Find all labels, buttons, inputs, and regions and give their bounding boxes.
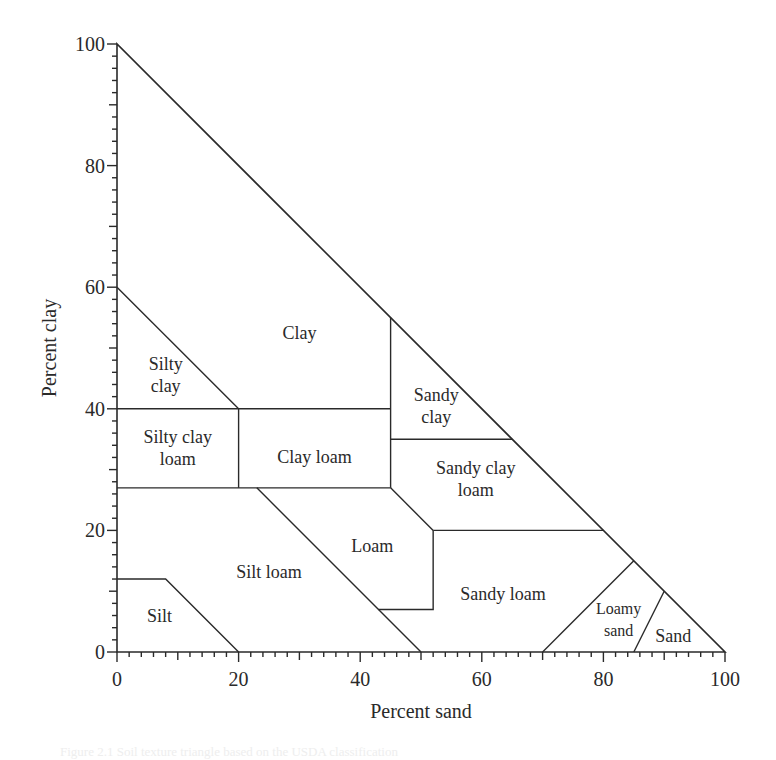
x-axis-title: Percent sand	[370, 700, 472, 722]
region-label-sandy-loam: Sandy loam	[460, 584, 546, 604]
y-tick-label: 40	[85, 398, 105, 420]
region-label-silt-loam: Silt loam	[236, 562, 302, 582]
y-tick-label: 0	[95, 641, 105, 663]
silt-boundary	[117, 579, 239, 652]
region-label-sandy-clay: clay	[421, 407, 451, 427]
axis-ticks	[107, 44, 725, 662]
loam-scl-diagonal	[391, 488, 434, 531]
region-label-clay-loam: Clay loam	[277, 447, 352, 467]
region-label-sandy-clay: Sandy	[414, 385, 459, 405]
x-tick-label: 80	[593, 668, 613, 690]
region-label-silty-clay: Silty	[149, 354, 183, 374]
x-tick-label: 40	[350, 668, 370, 690]
region-label-loam: Loam	[351, 536, 393, 556]
region-label-sand: Sand	[655, 626, 691, 646]
region-label-sandy-clay-loam: loam	[458, 480, 494, 500]
x-tick-label: 60	[472, 668, 492, 690]
y-tick-label: 80	[85, 155, 105, 177]
class-boundaries	[117, 287, 664, 652]
region-label-silt: Silt	[147, 606, 172, 626]
x-tick-label: 100	[710, 668, 740, 690]
y-axis-title: Percent clay	[38, 299, 61, 397]
x-tick-label: 0	[112, 668, 122, 690]
region-label-silty-clay: clay	[151, 376, 181, 396]
region-label-loamy-sand: Loamy	[596, 600, 641, 618]
region-labels: ClaySiltyclaySandyclaySilty clayloamClay…	[144, 323, 692, 646]
region-label-sandy-clay-loam: Sandy clay	[436, 458, 515, 478]
region-label-clay: Clay	[282, 323, 316, 343]
region-label-silty-clay-loam: Silty clay	[144, 427, 213, 447]
y-tick-label: 100	[75, 33, 105, 55]
y-tick-label: 20	[85, 519, 105, 541]
figure-caption: Figure 2.1 Soil texture triangle based o…	[60, 744, 398, 760]
region-label-silty-clay-loam: loam	[160, 449, 196, 469]
y-tick-label: 60	[85, 276, 105, 298]
region-label-loamy-sand: sand	[604, 622, 633, 639]
x-tick-label: 20	[229, 668, 249, 690]
